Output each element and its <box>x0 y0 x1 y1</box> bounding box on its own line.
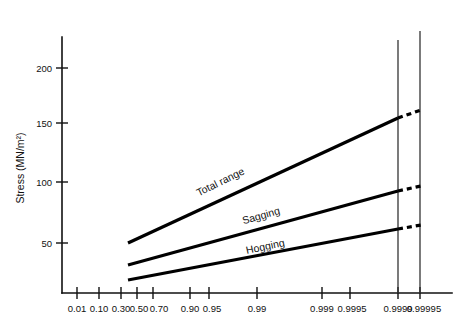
x-tick-label-4: 0.70 <box>150 303 169 314</box>
chart-figure: 200 150 100 50 Stress (MN/m²) 0.01 0.10 … <box>0 0 463 328</box>
x-tick-label-11: 0.99995 <box>407 303 441 314</box>
x-tick-label-1: 0.10 <box>90 303 109 314</box>
y-tick-label-100: 100 <box>36 177 52 188</box>
series-dash-hogging <box>398 225 421 229</box>
x-tick-label-0: 0.01 <box>68 303 87 314</box>
x-tick-label-9: 0.9995 <box>337 303 366 314</box>
y-axis-title: Stress (MN/m²) <box>14 132 26 203</box>
y-tick-label-150: 150 <box>36 118 52 129</box>
x-tick-label-8: 0.999 <box>310 303 334 314</box>
stress-probability-plot: 200 150 100 50 Stress (MN/m²) 0.01 0.10 … <box>0 0 463 328</box>
x-tick-label-3: 0.50 <box>130 303 149 314</box>
x-tick-label-7: 0.99 <box>248 303 267 314</box>
series-label-sagging: Sagging <box>241 204 282 226</box>
y-tick-label-50: 50 <box>41 238 52 249</box>
x-tick-label-6: 0.95 <box>203 303 222 314</box>
series-dash-total-range <box>398 110 421 118</box>
y-tick-label-200: 200 <box>36 63 52 74</box>
series-line-total-range <box>128 118 398 243</box>
x-tick-label-5: 0.90 <box>181 303 200 314</box>
x-tick-label-2: 0.30 <box>112 303 131 314</box>
series-dash-sagging <box>398 186 421 191</box>
